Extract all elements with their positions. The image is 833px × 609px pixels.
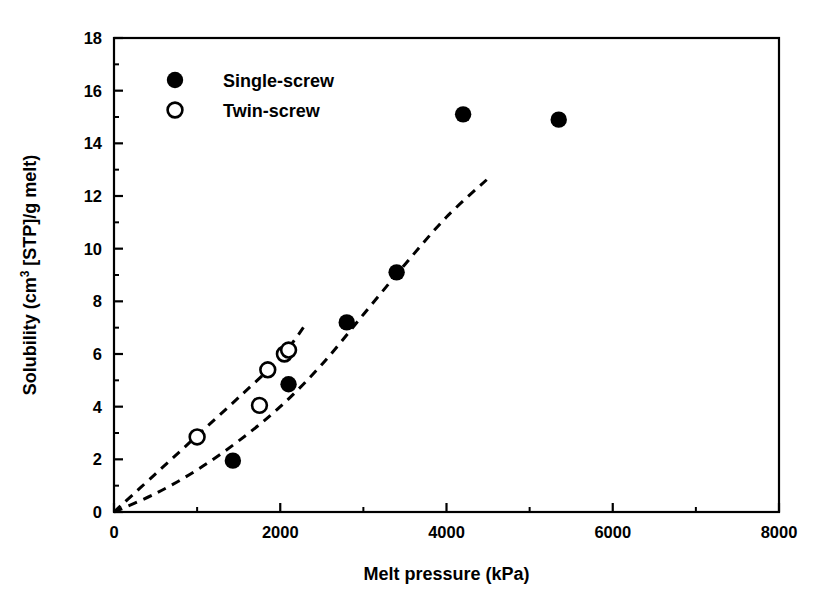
data-point-single-screw	[388, 264, 404, 280]
data-point-twin-screw	[260, 362, 275, 377]
y-axis-title: Solubility (cm3 [STP]/g melt)	[18, 155, 40, 396]
data-point-twin-screw	[190, 430, 205, 445]
y-tick-label: 18	[84, 29, 102, 47]
y-tick-label: 0	[93, 503, 102, 521]
solubility-vs-melt-pressure-chart: 02000400060008000024681012141618Melt pre…	[0, 0, 833, 609]
x-tick-label: 4000	[428, 523, 465, 541]
y-tick-label: 10	[84, 240, 102, 258]
x-tick-label: 2000	[262, 523, 299, 541]
x-axis-title: Melt pressure (kPa)	[363, 564, 529, 584]
plot-frame	[114, 38, 779, 512]
x-tick-label: 0	[109, 523, 118, 541]
legend-marker-filled-circle	[167, 72, 183, 88]
x-tick-label: 6000	[594, 523, 631, 541]
single-screw-trend	[114, 176, 491, 512]
data-point-single-screw	[551, 111, 567, 127]
x-tick-label: 8000	[761, 523, 798, 541]
legend-marker-open-circle	[168, 103, 183, 118]
y-tick-label: 6	[93, 345, 102, 363]
y-tick-label: 16	[84, 82, 102, 100]
data-point-single-screw	[225, 452, 241, 468]
data-point-single-screw	[455, 106, 471, 122]
data-point-twin-screw	[252, 398, 267, 413]
legend-label-twin-screw: Twin-screw	[223, 101, 321, 121]
data-point-twin-screw	[281, 343, 296, 358]
y-tick-label: 4	[93, 398, 103, 416]
y-tick-label: 8	[93, 292, 102, 310]
y-tick-label: 14	[84, 134, 103, 152]
y-tick-label: 2	[93, 450, 102, 468]
y-tick-label: 12	[84, 187, 102, 205]
legend-label-single-screw: Single-screw	[223, 71, 335, 91]
chart-canvas: 02000400060008000024681012141618Melt pre…	[0, 0, 833, 609]
data-point-single-screw	[339, 314, 355, 330]
data-point-single-screw	[280, 376, 296, 392]
